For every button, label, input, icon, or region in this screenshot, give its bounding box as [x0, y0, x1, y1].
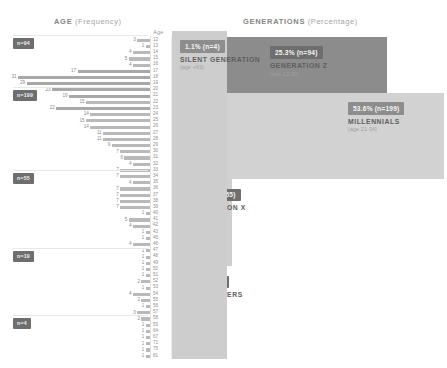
bar: [103, 132, 150, 135]
bar: [120, 200, 150, 203]
bar-value-label: 1: [142, 261, 145, 266]
bar-value-label: 1: [142, 249, 145, 254]
age-tick-30: 30: [150, 149, 172, 154]
bar: [141, 299, 150, 302]
age-tick-43: 43: [150, 230, 172, 235]
bar-value-label: 1: [142, 304, 145, 309]
age-tick-37: 37: [150, 193, 172, 198]
age-tick-39: 39: [150, 205, 172, 210]
age-tick-46: 46: [150, 242, 172, 247]
age-tick-48: 48: [150, 254, 172, 259]
bar-value-label: 23: [45, 88, 50, 93]
leader-line-silent: [13, 315, 148, 316]
bar-value-label: 22: [50, 106, 55, 111]
age-tick-64: 64: [150, 329, 172, 334]
bar-value-label: 1: [142, 255, 145, 260]
bar-value-label: 7: [116, 199, 119, 204]
age-tick-75: 75: [150, 347, 172, 352]
bar: [137, 311, 150, 314]
age-tick-35: 35: [150, 180, 172, 185]
side-count-badge-silent: n=4: [13, 318, 31, 329]
bar-value-label: 11: [97, 131, 102, 136]
generations-panel-header: GENERATIONS (Percentage): [243, 17, 358, 26]
bar-value-label: 1: [142, 236, 145, 241]
age-tick-38: 38: [150, 199, 172, 204]
age-tick-55: 55: [150, 298, 172, 303]
bar-value-label: 1: [142, 273, 145, 278]
age-tick-33: 33: [150, 168, 172, 173]
generation-label-silent: 1.1% (n=4)SILENT GENERATION(age +65): [180, 35, 260, 71]
bar-value-label: 2: [137, 280, 140, 285]
generation-age-range-silent: (age +65): [180, 64, 260, 70]
side-count-badge-millennials: n=199: [13, 90, 37, 101]
age-tick-axis: 1213141516171819202122232425262728293031…: [150, 37, 172, 359]
bar: [120, 194, 150, 197]
bar: [69, 95, 150, 98]
bar-value-label: 1: [142, 329, 145, 334]
age-tick-27: 27: [150, 131, 172, 136]
bar-value-label: 7: [116, 193, 119, 198]
age-tick-67: 67: [150, 335, 172, 340]
generation-block-silent[interactable]: 1.1% (n=4)SILENT GENERATION(age +65): [172, 31, 447, 359]
bar-value-label: 1: [142, 342, 145, 347]
bar-value-label: 1: [142, 354, 145, 359]
age-tick-40: 40: [150, 211, 172, 216]
age-tick-81: 81: [150, 354, 172, 359]
bar-value-label: 1: [142, 230, 145, 235]
bar-value-label: 6: [120, 156, 123, 161]
generation-blocks: 25.3% (n=94)GENERATION Z(age 12-20)53.6%…: [172, 37, 447, 359]
bar-value-label: 4: [129, 162, 132, 167]
bar-value-label: 1: [142, 335, 145, 340]
side-count-badge-baby_boomers: n=19: [13, 251, 34, 262]
bar-value-label: 29: [20, 81, 25, 86]
leader-line-gen_x: [13, 170, 148, 171]
bar-value-label: 4: [129, 292, 132, 297]
age-tick-20: 20: [150, 87, 172, 92]
bar: [52, 88, 150, 91]
age-tick-29: 29: [150, 143, 172, 148]
bar: [90, 113, 150, 116]
bar-value-label: 1: [142, 211, 145, 216]
age-tick-21: 21: [150, 93, 172, 98]
bar-value-label: 15: [80, 119, 85, 124]
bar-value-label: 4: [129, 181, 132, 186]
generation-bar-silent: [172, 31, 227, 359]
leader-line-millennials: [13, 87, 148, 88]
age-tick-54: 54: [150, 292, 172, 297]
age-tick-56: 56: [150, 304, 172, 309]
age-tick-22: 22: [150, 100, 172, 105]
bar-value-label: 1: [142, 348, 145, 353]
age-tick-42: 42: [150, 223, 172, 228]
bar-value-label: 1: [142, 323, 145, 328]
bar: [137, 39, 150, 42]
bar-value-label: 4: [129, 50, 132, 55]
bar: [90, 126, 150, 129]
age-tick-32: 32: [150, 162, 172, 167]
bar-value-label: 19: [62, 94, 67, 99]
bar: [86, 119, 150, 122]
bar-value-label: 2: [137, 298, 140, 303]
age-panel-subtitle: (Frequency): [75, 17, 121, 26]
generations-panel-subtitle: (Percentage): [308, 17, 358, 26]
bar: [120, 206, 150, 209]
generation-name-silent: SILENT GENERATION: [180, 56, 260, 63]
age-tick-31: 31: [150, 155, 172, 160]
bar-value-label: 5: [125, 57, 128, 62]
bar-value-label: 7: [116, 205, 119, 210]
age-tick-52: 52: [150, 279, 172, 284]
age-tick-25: 25: [150, 118, 172, 123]
age-tick-58: 58: [150, 316, 172, 321]
histogram-row: 1: [0, 353, 150, 359]
age-tick-59: 59: [150, 323, 172, 328]
bar: [120, 150, 150, 153]
age-tick-49: 49: [150, 261, 172, 266]
age-tick-26: 26: [150, 124, 172, 129]
bar-value-label: 7: [116, 174, 119, 179]
bar-value-label: 4: [129, 242, 132, 247]
bar: [27, 82, 150, 85]
age-tick-45: 45: [150, 236, 172, 241]
generations-panel-title: GENERATIONS: [243, 17, 305, 26]
age-tick-18: 18: [150, 75, 172, 80]
bar-value-label: 1: [142, 267, 145, 272]
bar-value-label: 7: [116, 150, 119, 155]
